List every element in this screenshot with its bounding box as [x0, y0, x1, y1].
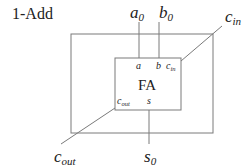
fa-label: FA: [138, 78, 156, 93]
input-cin-label: cin: [225, 8, 241, 27]
output-s0-label: s0: [144, 148, 156, 167]
port-s-label: s: [147, 96, 151, 106]
port-cin-label: cin: [166, 61, 176, 72]
wire-cin: [181, 26, 222, 61]
diagram-title: 1-Add: [12, 6, 53, 22]
port-a-label: a: [136, 61, 141, 71]
port-b-label: b: [156, 61, 161, 71]
adder-diagram-lines: [0, 0, 252, 167]
wire-cout: [61, 108, 115, 144]
input-a0-label: a0: [130, 4, 144, 23]
port-cout-label: cout: [117, 96, 130, 107]
output-cout-label: cout: [54, 148, 76, 167]
input-b0-label: b0: [159, 4, 173, 23]
